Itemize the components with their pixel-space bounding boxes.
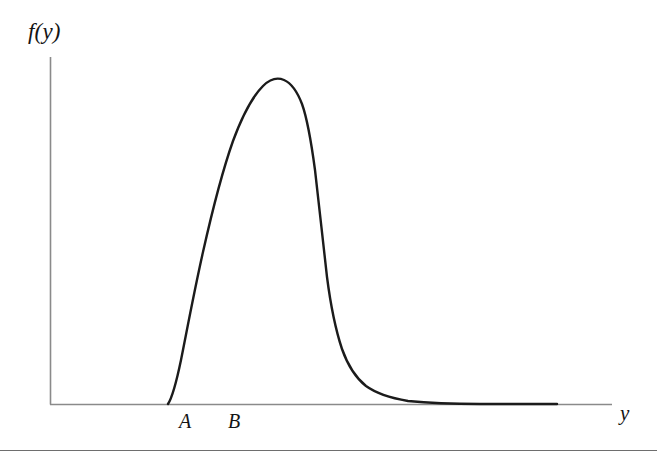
density-curve-figure: f(y) y A B [0,0,657,461]
x-tick-label-a: A [179,411,191,431]
chart-canvas [0,0,657,461]
y-axis-label: f(y) [28,20,61,43]
page-separator-rule [0,450,657,451]
x-tick-label-b: B [228,411,240,431]
density-curve [168,79,557,404]
x-axis-label: y [620,403,629,424]
